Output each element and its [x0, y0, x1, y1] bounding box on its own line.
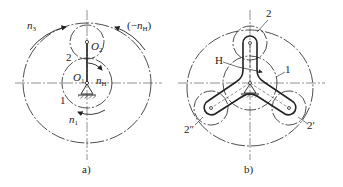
label-planet-2: 2: [266, 8, 272, 19]
label-O2: O2: [91, 41, 102, 54]
arrow-n1: [78, 110, 105, 114]
label-gear-1: 1: [60, 95, 66, 106]
O1-subscript: 1: [81, 77, 85, 85]
label-carrier-H: H: [215, 55, 223, 66]
label-sun-1: 1: [285, 64, 291, 75]
label-n1: n1: [69, 114, 78, 127]
label-gear-2: 2: [66, 52, 72, 63]
pivot-O2: [85, 40, 88, 43]
caption-b: b): [244, 164, 253, 175]
leader-1: [276, 72, 285, 77]
label-n3: n3: [27, 20, 36, 33]
arrow-nH: [88, 63, 102, 70]
label-planet-2-double-prime: 2″: [184, 124, 194, 135]
neg-nH-close: ): [147, 19, 151, 31]
leader-2: [257, 20, 268, 32]
label-O1: O1: [73, 72, 84, 85]
leader-H: [223, 62, 238, 67]
O2-subscript: 2: [99, 46, 103, 54]
n3-subscript: 3: [33, 25, 37, 33]
nH-subscript: H: [102, 80, 107, 88]
neg-nH-open: (−: [127, 19, 137, 31]
n1-subscript: 1: [75, 119, 79, 127]
label-nH: nH: [96, 75, 107, 88]
O2-text: O: [91, 40, 99, 52]
label-neg-nH: (−nH): [127, 20, 151, 33]
label-planet-2-prime: 2′: [307, 120, 315, 131]
figure-b: [178, 10, 325, 160]
O1-text: O: [73, 71, 81, 83]
caption-a: a): [82, 164, 91, 175]
planetary-gear-diagram: [0, 0, 343, 187]
